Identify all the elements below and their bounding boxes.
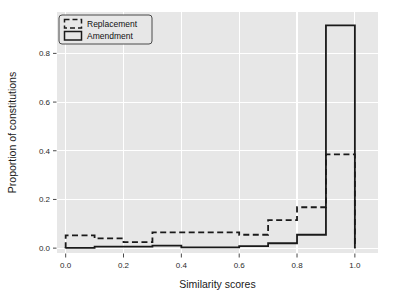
- y-tick-label-0: 0.0: [39, 244, 51, 253]
- y-tick-label-3: 0.6: [39, 98, 51, 107]
- x-tick-label-2: 0.4: [176, 261, 188, 270]
- histogram-chart: 0.00.20.40.60.8 0.00.20.40.60.81.0 Simil…: [0, 0, 394, 302]
- x-tick-label-4: 0.8: [291, 261, 303, 270]
- legend-item-replacement[interactable]: Replacement: [87, 19, 138, 29]
- x-axis-label: Similarity scores: [179, 278, 255, 290]
- x-tick-label-1: 0.2: [118, 261, 130, 270]
- y-tick-label-1: 0.2: [39, 195, 51, 204]
- chart-legend[interactable]: Replacement Amendment: [59, 15, 152, 44]
- y-tick-label-4: 0.8: [39, 49, 51, 58]
- x-tick-label-0: 0.0: [60, 261, 72, 270]
- plot-area-background: [57, 12, 378, 253]
- legend-item-amendment[interactable]: Amendment: [87, 31, 133, 41]
- chart-figure: 0.00.20.40.60.8 0.00.20.40.60.81.0 Simil…: [0, 0, 394, 302]
- x-tick-label-5: 1.0: [349, 261, 361, 270]
- y-axis-label: Proportion of constitutions: [6, 72, 18, 193]
- y-tick-label-2: 0.4: [39, 147, 51, 156]
- x-tick-label-3: 0.6: [234, 261, 246, 270]
